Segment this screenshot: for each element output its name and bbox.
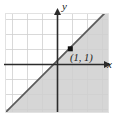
graph-svg: y x (1, 1) [0,0,115,120]
point-label: (1, 1) [70,52,93,64]
x-axis-label: x [106,58,112,70]
y-axis-label: y [61,0,67,12]
coordinate-plane-figure: y x (1, 1) [0,0,115,120]
